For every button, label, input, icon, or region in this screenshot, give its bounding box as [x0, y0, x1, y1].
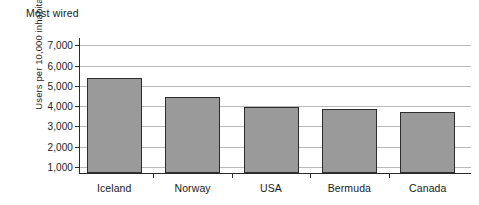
- bar-iceland: [87, 78, 142, 173]
- bar-norway: [165, 97, 220, 173]
- x-tick-label-norway: Norway: [174, 182, 210, 194]
- plot-area: 1,0002,0003,0004,0005,0006,0007,000 Icel…: [79, 38, 471, 174]
- x-tick-label-bermuda: Bermuda: [328, 182, 371, 194]
- chart-page: Most wired Users per 10,000 inhabitants …: [0, 0, 479, 205]
- y-tick-label: 7,000: [47, 40, 73, 51]
- y-tick-label: 3,000: [47, 121, 73, 132]
- x-tick-mark: [310, 174, 311, 178]
- y-axis-label: Users per 10,000 inhabitants: [33, 0, 44, 118]
- y-tick-label: 6,000: [47, 60, 73, 71]
- x-tick-label-canada: Canada: [409, 182, 446, 194]
- x-axis-line: [79, 173, 471, 174]
- gridline-6000: [79, 66, 471, 67]
- x-tick-mark: [153, 174, 154, 178]
- y-tick-label: 5,000: [47, 80, 73, 91]
- gridline-7000: [79, 45, 471, 46]
- y-tick-label: 2,000: [47, 141, 73, 152]
- x-tick-label-usa: USA: [260, 182, 282, 194]
- bar-canada: [400, 112, 455, 173]
- x-tick-mark: [389, 174, 390, 178]
- x-tick-label-iceland: Iceland: [97, 182, 132, 194]
- y-tick-label: 4,000: [47, 101, 73, 112]
- bar-bermuda: [322, 109, 377, 173]
- y-tick-label: 1,000: [47, 162, 73, 173]
- bar-usa: [244, 107, 299, 173]
- x-tick-mark: [232, 174, 233, 178]
- y-axis-line: [79, 38, 80, 174]
